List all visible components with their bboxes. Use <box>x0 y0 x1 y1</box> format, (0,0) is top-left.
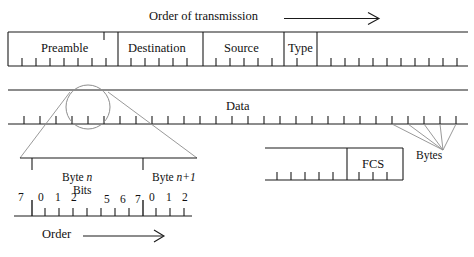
byte-n-label: Byte n <box>62 172 92 184</box>
bit-number-9: 2 <box>182 192 188 204</box>
order-of-transmission-label: Order of transmission <box>149 10 258 23</box>
bytes-callout-lines <box>392 124 456 150</box>
byte-next-word: Byte <box>152 171 174 183</box>
byte-next-index: n+1 <box>177 171 196 183</box>
byte-n-word: Byte <box>62 171 84 183</box>
bit-number-7: 0 <box>149 192 155 204</box>
bit-number-3: 2 <box>71 192 77 204</box>
bit-number-8: 1 <box>166 192 172 204</box>
ethernet-frame-diagram: Order of transmission Preamble Destinati… <box>0 0 474 257</box>
fcs-label: FCS <box>362 158 384 171</box>
order-of-transmission-arrow-icon <box>284 13 379 25</box>
field-label-preamble: Preamble <box>41 42 88 55</box>
field-label-type: Type <box>288 42 313 55</box>
field-label-source: Source <box>224 42 259 55</box>
bit-number-1: 0 <box>38 192 44 204</box>
data-label: Data <box>226 100 250 113</box>
bit-number-2: 1 <box>55 192 61 204</box>
fcs-byte-ticks <box>277 172 387 180</box>
magnifier-guide-lines <box>20 92 197 158</box>
byte-detail-bar <box>20 158 197 170</box>
bit-ruler-ticks <box>45 208 184 216</box>
order-label: Order <box>42 228 71 241</box>
bit-number-4: 5 <box>104 194 110 206</box>
data-byte-ticks <box>24 116 456 124</box>
bit-number-5: 6 <box>120 194 126 206</box>
byte-n-plus-1-label: Byte n+1 <box>152 172 196 184</box>
field-label-destination: Destination <box>128 42 186 55</box>
frame-byte-ticks <box>22 58 457 66</box>
bytes-callout-label: Bytes <box>416 150 442 162</box>
order-arrow-icon <box>83 230 164 242</box>
bit-number-6: 7 <box>135 194 141 206</box>
bit-number-0: 7 <box>18 192 24 204</box>
byte-n-index: n <box>87 171 93 183</box>
diagram-canvas <box>0 0 474 257</box>
